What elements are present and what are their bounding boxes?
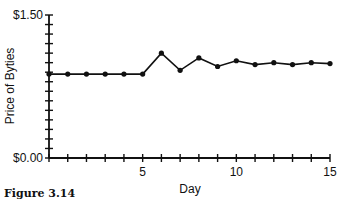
line-chart: 51015$0.00$1.50 Day Price of Byties — [0, 0, 347, 206]
data-point — [196, 55, 201, 60]
axis-ticks — [45, 15, 330, 162]
data-point — [290, 62, 295, 67]
axes — [49, 15, 330, 158]
svg-text:10: 10 — [230, 165, 244, 179]
data-point — [327, 61, 332, 66]
data-point — [103, 72, 108, 77]
data-point — [121, 72, 126, 77]
data-point — [84, 72, 89, 77]
x-axis-label: Day — [179, 182, 200, 196]
svg-text:$1.50: $1.50 — [13, 8, 43, 22]
data-point — [234, 58, 239, 63]
figure-caption: Figure 3.14 — [4, 187, 75, 200]
svg-text:15: 15 — [323, 165, 337, 179]
data-point — [252, 62, 257, 67]
data-point — [309, 60, 314, 65]
svg-text:$0.00: $0.00 — [13, 151, 43, 165]
data-point — [215, 64, 220, 69]
data-point — [178, 68, 183, 73]
data-point — [159, 51, 164, 56]
svg-text:5: 5 — [139, 165, 146, 179]
data-point — [271, 60, 276, 65]
tick-labels: 51015$0.00$1.50 — [13, 8, 337, 179]
data-point — [65, 72, 70, 77]
y-axis-label: Price of Byties — [3, 48, 17, 125]
price-line — [49, 53, 330, 74]
data-point — [46, 72, 51, 77]
data-point — [140, 72, 145, 77]
